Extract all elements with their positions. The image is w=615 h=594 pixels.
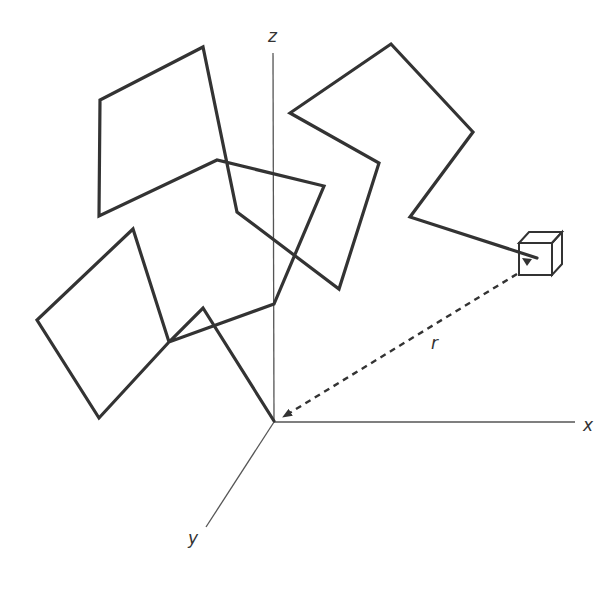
y-axis-label: y <box>188 530 198 547</box>
random-walk-diagram: z x y r <box>0 0 615 594</box>
y-axis <box>206 422 274 527</box>
cube-arrowhead-icon <box>522 258 532 266</box>
displacement-vector-r <box>283 274 517 417</box>
z-axis-label: z <box>268 28 277 45</box>
vector-r-label: r <box>431 335 438 352</box>
diagram-canvas <box>0 0 615 594</box>
x-axis-label: x <box>583 417 593 434</box>
coordinate-axes <box>206 53 575 527</box>
random-walk-path <box>37 44 537 421</box>
